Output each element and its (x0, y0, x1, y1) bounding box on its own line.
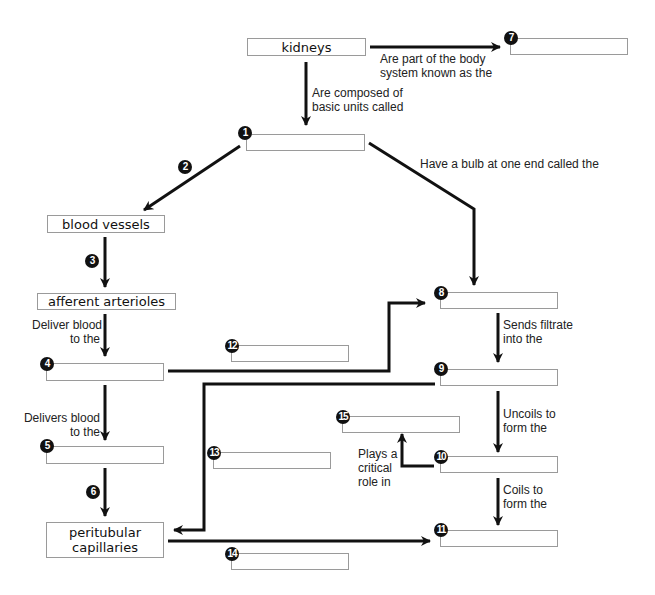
link-number-2: 2 (178, 160, 192, 174)
number-badge-8: 8 (434, 286, 448, 300)
link-label-body-system: Are part of the body system known as the (380, 52, 492, 80)
blank-1[interactable] (246, 134, 365, 151)
blank-14[interactable] (231, 553, 349, 570)
node-blood-vessels: blood vessels (47, 215, 165, 233)
blank-4[interactable] (46, 363, 164, 381)
node-afferent-arterioles: afferent arterioles (37, 293, 176, 310)
link-number-6: 6 (86, 485, 100, 499)
link-label-delivers-blood: Delivers blood to the (22, 411, 100, 439)
node-blood-vessels-label: blood vessels (62, 217, 150, 232)
link-label-composed-of: Are composed of basic units called (312, 86, 403, 114)
blank-9[interactable] (440, 369, 558, 386)
node-afferent-arterioles-label: afferent arterioles (48, 294, 165, 309)
number-badge-10: 10 (434, 450, 448, 464)
blank-7[interactable] (510, 38, 628, 55)
link-label-bulb: Have a bulb at one end called the (420, 157, 599, 171)
number-badge-12: 12 (225, 339, 239, 353)
number-badge-14: 14 (225, 547, 239, 561)
number-badge-11: 11 (434, 523, 448, 537)
number-badge-1: 1 (238, 126, 252, 140)
link-label-deliver-blood: Deliver blood to the (32, 318, 100, 346)
blank-10[interactable] (440, 456, 558, 473)
number-badge-13: 13 (207, 446, 221, 460)
node-kidneys-label: kidneys (281, 40, 331, 55)
blank-8[interactable] (440, 292, 558, 309)
blank-5[interactable] (46, 446, 164, 464)
link-label-coils: Coils to form the (503, 483, 547, 511)
number-badge-15: 15 (336, 410, 350, 424)
node-peritubular-capillaries-label: peritubular capillaries (69, 525, 141, 555)
node-kidneys: kidneys (247, 38, 366, 56)
number-badge-7: 7 (504, 31, 518, 45)
blank-12[interactable] (231, 345, 349, 362)
link-label-sends-filtrate: Sends filtrate into the (503, 318, 573, 346)
kidney-concept-map: kidneys blood vessels afferent arteriole… (0, 0, 655, 595)
number-badge-5: 5 (40, 439, 54, 453)
link-label-critical-role: Plays a critical role in (358, 447, 397, 489)
blank-15[interactable] (342, 416, 460, 433)
node-peritubular-capillaries: peritubular capillaries (46, 522, 164, 558)
link-label-uncoils: Uncoils to form the (503, 407, 556, 435)
link-number-3: 3 (85, 254, 99, 268)
number-badge-4: 4 (40, 357, 54, 371)
blank-13[interactable] (213, 452, 331, 469)
number-badge-9: 9 (434, 362, 448, 376)
blank-11[interactable] (440, 530, 558, 547)
